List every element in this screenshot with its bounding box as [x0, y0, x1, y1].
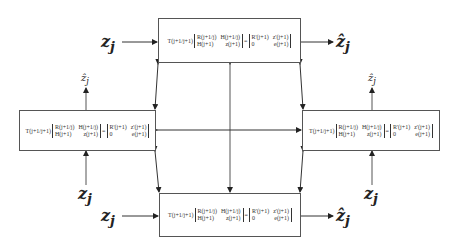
- m: R'(j+1): [252, 208, 269, 215]
- m: R(j+1/j): [197, 34, 216, 41]
- lhs-matrix: R(j+1/j)H(j+1/j) H(j+1)z(j+1): [194, 34, 243, 48]
- m: H(j+1): [339, 131, 355, 138]
- m: H(j+1/j): [220, 34, 240, 41]
- block-right: T(j+1/j+1) R(j+1/j)H(j+1/j) H(j+1)z(j+1)…: [302, 110, 440, 151]
- m: e(j+1): [274, 215, 289, 222]
- left-output-label: ẑj: [81, 72, 89, 86]
- m: R'(j+1): [393, 124, 410, 131]
- top-input-label: zj: [101, 32, 115, 54]
- eq-prefix: T(j+1/j+1): [168, 38, 193, 44]
- bottom-input-label: zj: [101, 206, 115, 228]
- equation: T(j+1/j+1) R(j+1/j)H(j+1/j) H(j+1)z(j+1)…: [309, 124, 433, 138]
- rhs-matrix: R'(j+1)z'(j+1) 0e(j+1): [390, 124, 433, 138]
- lhs-matrix: R(j+1/j)H(j+1/j) H(j+1)z(j+1): [336, 124, 385, 138]
- rhs-matrix: R'(j+1)z'(j+1) 0e(j+1): [249, 208, 292, 222]
- block-top: T(j+1/j+1) R(j+1/j)H(j+1/j) H(j+1)z(j+1)…: [158, 18, 301, 63]
- bottom-output-label: ẑj: [336, 206, 350, 228]
- m: e(j+1): [274, 41, 289, 48]
- m: R(j+1/j): [55, 124, 74, 131]
- m: H(j+1/j): [362, 124, 382, 131]
- m: z(j+1): [225, 41, 240, 48]
- m: H(j+1): [55, 131, 71, 138]
- m: R'(j+1): [110, 124, 127, 131]
- m: z(j+1): [226, 215, 241, 222]
- eq-prefix: T(j+1/j+1): [168, 212, 193, 218]
- right-output-label: ẑj: [368, 72, 376, 86]
- eq-prefix: T(j+1/j+1): [26, 128, 51, 134]
- m: 0: [110, 131, 113, 138]
- equation: T(j+1/j+1) R(j+1/j)H(j+1/j) H(j+1)z(j+1)…: [168, 34, 292, 48]
- m: H(j+1): [197, 41, 213, 48]
- lhs-matrix: R(j+1/j)H(j+1/j) H(j+1)z(j+1): [195, 208, 244, 222]
- right-bottom-link: [300, 151, 303, 192]
- equation: T(j+1/j+1) R(j+1/j)H(j+1/j) H(j+1)z(j+1)…: [168, 208, 292, 222]
- m: H(j+1/j): [221, 208, 241, 215]
- block-left: T(j+1/j+1) R(j+1/j)H(j+1/j) H(j+1)z(j+1)…: [19, 110, 156, 151]
- m: z'(j+1): [131, 124, 147, 131]
- left-input-label: zj: [78, 184, 92, 206]
- m: e(j+1): [132, 131, 147, 138]
- m: z'(j+1): [414, 124, 430, 131]
- rhs-matrix: R'(j+1)z'(j+1) 0e(j+1): [107, 124, 150, 138]
- m: R(j+1/j): [198, 208, 217, 215]
- equals: =: [386, 128, 389, 134]
- m: e(j+1): [415, 131, 430, 138]
- m: z'(j+1): [273, 208, 289, 215]
- m: R(j+1/j): [339, 124, 358, 131]
- m: H(j+1): [198, 215, 214, 222]
- m: H(j+1/j): [78, 124, 98, 131]
- m: R'(j+1): [252, 34, 269, 41]
- lhs-matrix: R(j+1/j)H(j+1/j) H(j+1)z(j+1): [52, 124, 101, 138]
- eq-prefix: T(j+1/j+1): [309, 128, 334, 134]
- m: 0: [252, 215, 255, 222]
- left-bottom-link: [155, 151, 159, 192]
- m: 0: [393, 131, 396, 138]
- m: z'(j+1): [273, 34, 289, 41]
- m: 0: [252, 41, 255, 48]
- top-left-link: [155, 64, 158, 109]
- right-input-label: zj: [364, 184, 378, 206]
- equals: =: [102, 128, 105, 134]
- m: z(j+1): [367, 131, 382, 138]
- top-right-link: [300, 64, 303, 109]
- equation: T(j+1/j+1) R(j+1/j)H(j+1/j) H(j+1)z(j+1)…: [26, 124, 150, 138]
- rhs-matrix: R'(j+1)z'(j+1) 0e(j+1): [249, 34, 292, 48]
- equals: =: [245, 212, 248, 218]
- m: z(j+1): [83, 131, 98, 138]
- equals: =: [244, 38, 247, 44]
- block-bottom: T(j+1/j+1) R(j+1/j)H(j+1/j) H(j+1)z(j+1)…: [159, 193, 301, 237]
- top-output-label: ẑj: [336, 32, 350, 54]
